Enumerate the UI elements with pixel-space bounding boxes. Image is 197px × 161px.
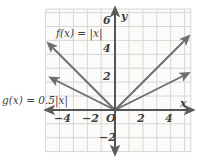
function-label-g: g(x) = 0.5|x|: [2, 94, 68, 106]
y-axis-label: y: [121, 10, 127, 23]
x-tick-minus-4: −4: [54, 112, 71, 125]
x-tick-minus-2: −2: [82, 112, 99, 125]
y-tick-4: 4: [103, 42, 111, 55]
y-tick-6: 6: [103, 14, 111, 27]
x-axis-label: x: [180, 97, 187, 110]
graph-figure: 6 4 2 −2 −4 −2 2 4 O x y f(x) = |x| g(x)…: [0, 0, 197, 161]
y-tick-minus-2: −2: [99, 131, 116, 144]
origin-label: O: [106, 112, 116, 125]
x-tick-4: 4: [165, 112, 173, 125]
y-tick-2: 2: [103, 70, 111, 83]
x-tick-2: 2: [137, 112, 145, 125]
function-label-f: f(x) = |x|: [56, 27, 102, 39]
